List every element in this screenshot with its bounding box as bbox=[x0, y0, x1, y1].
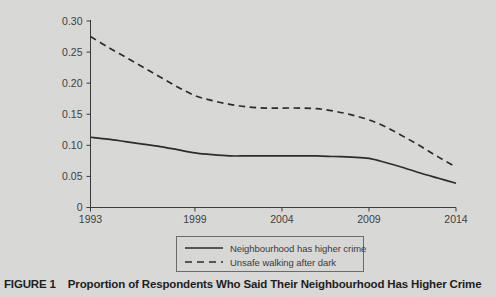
axis-spines bbox=[91, 20, 457, 208]
x-tick-label: 1999 bbox=[183, 213, 207, 225]
x-tick-label: 2009 bbox=[357, 213, 381, 225]
y-tick-label: 0.25 bbox=[62, 46, 83, 58]
series-line-2 bbox=[91, 37, 457, 168]
x-tick-label: 1993 bbox=[79, 213, 103, 225]
y-tick-label: 0 bbox=[77, 201, 83, 213]
legend-label-dashed: Unsafe walking after dark bbox=[230, 257, 336, 268]
figure-container: 00.050.100.150.200.250.30 19931999200420… bbox=[0, 0, 496, 297]
legend-item-dashed: Unsafe walking after dark bbox=[177, 255, 363, 269]
data-series-group bbox=[91, 37, 457, 184]
legend-swatch-dashed-line bbox=[184, 257, 224, 267]
line-chart-plot: 00.050.100.150.200.250.30 19931999200420… bbox=[0, 0, 496, 232]
y-axis-ticks: 00.050.100.150.200.250.30 bbox=[62, 15, 90, 214]
y-tick-label: 0.20 bbox=[62, 77, 83, 89]
legend-item-solid: Neighbourhood has higher crime bbox=[177, 241, 363, 255]
x-tick-label: 2014 bbox=[444, 213, 468, 225]
figure-number: FIGURE 1 bbox=[4, 278, 56, 290]
y-tick-label: 0.15 bbox=[62, 108, 83, 120]
y-tick-label: 0.10 bbox=[62, 139, 83, 151]
legend-swatch-solid-line bbox=[184, 243, 224, 253]
chart-legend: Neighbourhood has higher crime Unsafe wa… bbox=[176, 236, 364, 272]
y-tick-label: 0.30 bbox=[62, 15, 83, 27]
legend-label-solid: Neighbourhood has higher crime bbox=[230, 243, 366, 254]
figure-caption: FIGURE 1Proportion of Respondents Who Sa… bbox=[4, 278, 496, 290]
y-tick-label: 0.05 bbox=[62, 170, 83, 182]
x-tick-label: 2004 bbox=[270, 213, 294, 225]
figure-title: Proportion of Respondents Who Said Their… bbox=[68, 278, 482, 290]
series-line-1 bbox=[91, 137, 457, 183]
x-axis-ticks: 19931999200420092014 bbox=[79, 208, 468, 225]
